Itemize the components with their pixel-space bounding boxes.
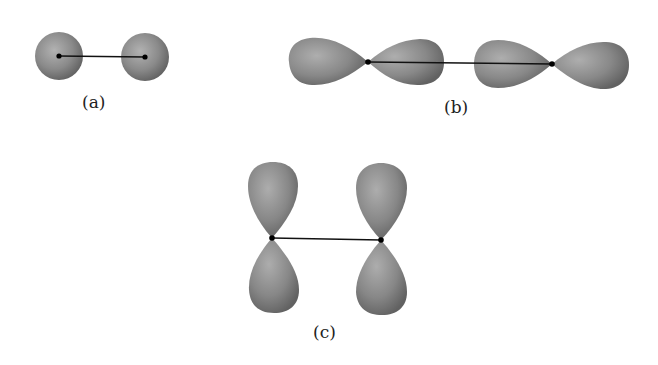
nucleus-a-left <box>56 53 61 58</box>
bond-line-a <box>59 56 145 57</box>
nucleus-b-left <box>365 59 371 65</box>
panel-label-a: (a) <box>82 94 105 111</box>
panel-a <box>35 32 169 81</box>
nucleus-a-right <box>142 54 147 59</box>
bond-line-c <box>272 238 381 240</box>
panel-c <box>248 162 407 315</box>
p-lobe-b1-left <box>289 38 368 85</box>
nucleus-c-right <box>378 237 384 243</box>
p-lobe-c2-bottom <box>356 240 407 315</box>
p-lobe-c2-top <box>356 163 407 240</box>
panel-label-b: (b) <box>444 99 468 116</box>
nucleus-c-left <box>269 235 275 241</box>
orbital-diagram <box>0 0 658 365</box>
p-lobe-c1-top <box>248 162 298 238</box>
p-lobe-c1-bottom <box>249 238 299 313</box>
p-lobe-b2-right <box>552 42 629 89</box>
panel-b <box>289 38 629 89</box>
nucleus-b-right <box>549 61 555 67</box>
panel-label-c: (c) <box>313 324 336 341</box>
